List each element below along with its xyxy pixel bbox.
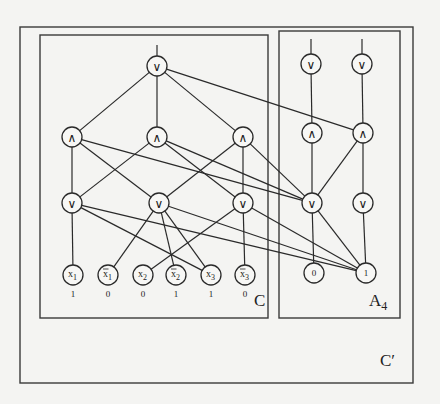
or-symbol-icon: ∨ <box>68 197 77 211</box>
input-x3: x31 <box>201 265 221 299</box>
input-value: 1 <box>174 289 179 299</box>
input-x1: x11 <box>63 265 83 299</box>
input-x2: x20 <box>133 265 153 299</box>
or-symbol-icon: ∨ <box>359 197 368 211</box>
and-symbol-icon: ∧ <box>359 127 368 141</box>
or-symbol-icon: ∨ <box>155 197 164 211</box>
wire-a_or_top_l-a_and_l <box>311 74 312 123</box>
circuit-gates: ∨∧∧∧∨∨∨∨∨∧∧∨∨x11x10x20x21x31x3001 <box>62 54 376 299</box>
or-gate-a_or_top_r: ∨ <box>352 54 372 74</box>
input-value: 1 <box>209 289 214 299</box>
and-gate-a_and_r: ∧ <box>353 123 373 143</box>
and-gate-a_and_l: ∧ <box>302 123 322 143</box>
input-value: 0 <box>106 289 111 299</box>
or-gate-c_or_1: ∨ <box>62 193 82 213</box>
wire-a_or_top_r-a_and_r <box>362 74 363 123</box>
or-gate-c_or_3: ∨ <box>233 193 253 213</box>
wire-c_or_top-c_and_1 <box>80 72 150 130</box>
and-symbol-icon: ∧ <box>68 131 77 145</box>
or-symbol-icon: ∨ <box>239 197 248 211</box>
wire-a_or_l-const1 <box>318 211 360 265</box>
wire-c_or_2-nx1 <box>114 211 153 267</box>
constant-1: 1 <box>356 263 376 283</box>
input-value: 0 <box>141 289 146 299</box>
wire-c_and_2-a_or_l <box>166 141 303 199</box>
or-symbol-icon: ∨ <box>307 58 316 72</box>
constant-label: 0 <box>312 268 317 278</box>
input-value: 0 <box>243 289 248 299</box>
input-nx1: x10 <box>98 265 118 299</box>
and-gate-c_and_1: ∧ <box>62 127 82 147</box>
input-value: 1 <box>71 289 76 299</box>
wire-a_or_r-const1 <box>363 213 365 263</box>
and-symbol-icon: ∧ <box>153 131 162 145</box>
constant-label: 1 <box>364 268 369 278</box>
or-gate-a_or_l: ∨ <box>302 193 322 213</box>
and-gate-c_and_2: ∧ <box>147 127 167 147</box>
or-gate-c_or_top: ∨ <box>147 56 167 76</box>
wire-c_or_1-x3 <box>81 208 202 271</box>
box-label: C′ <box>380 351 395 370</box>
wire-c_or_2-x3 <box>165 211 205 267</box>
box-label: A4 <box>369 291 387 313</box>
box-a4: A4 <box>279 31 400 318</box>
or-symbol-icon: ∨ <box>358 58 367 72</box>
wire-c_or_1-const1 <box>82 205 357 270</box>
or-symbol-icon: ∨ <box>153 60 162 74</box>
wire-c_or_2-const1 <box>169 206 357 270</box>
or-symbol-icon: ∨ <box>308 197 317 211</box>
circuit-diagram: C′CA4 ∨∧∧∧∨∨∨∨∨∧∧∨∨x11x10x20x21x31x3001 <box>0 0 440 404</box>
wire-c_or_top-a_and_r <box>167 69 354 130</box>
and-symbol-icon: ∧ <box>239 131 248 145</box>
or-gate-a_or_top_l: ∨ <box>301 54 321 74</box>
wire-c_or_top-c_and_3 <box>165 72 236 130</box>
wire-a_and_r-a_or_l <box>318 141 357 195</box>
circuit-wires <box>72 39 366 271</box>
and-symbol-icon: ∧ <box>308 127 317 141</box>
constant-0: 0 <box>304 263 324 283</box>
input-nx3: x30 <box>235 265 255 299</box>
box-label: C <box>254 291 265 310</box>
and-gate-c_and_3: ∧ <box>233 127 253 147</box>
wire-c_or_3-nx3 <box>243 213 244 265</box>
wire-c_or_1-x1 <box>72 213 73 265</box>
input-nx2: x21 <box>166 265 186 299</box>
or-gate-a_or_r: ∨ <box>353 193 373 213</box>
or-gate-c_or_2: ∨ <box>149 193 169 213</box>
